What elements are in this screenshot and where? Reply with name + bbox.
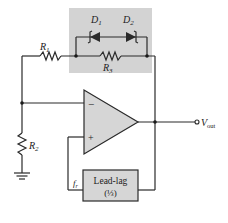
resistor-r2 xyxy=(18,133,26,155)
vout-terminal xyxy=(195,120,199,124)
junction-dot xyxy=(20,101,24,105)
opamp-plus-label: + xyxy=(88,132,94,143)
resistor-r1 xyxy=(40,52,61,60)
lead-lag-gain: (⅓) xyxy=(104,188,117,198)
fr-label: fr xyxy=(73,178,79,189)
lead-lag-label: Lead-lag xyxy=(94,176,128,186)
junction-dot xyxy=(145,54,149,58)
circuit-diagram: − + Lead-lag (⅓) R1 R3 R2 D1 D2 fr Vout xyxy=(0,0,228,223)
junction-dot xyxy=(74,54,78,58)
ground-icon xyxy=(14,173,30,179)
vout-label: Vout xyxy=(201,117,216,129)
r1-label: R1 xyxy=(39,41,50,54)
junction-dot xyxy=(153,120,157,124)
diode-limiter-shade xyxy=(69,8,152,73)
opamp-minus-label: − xyxy=(88,98,94,110)
r2-label: R2 xyxy=(28,140,39,153)
